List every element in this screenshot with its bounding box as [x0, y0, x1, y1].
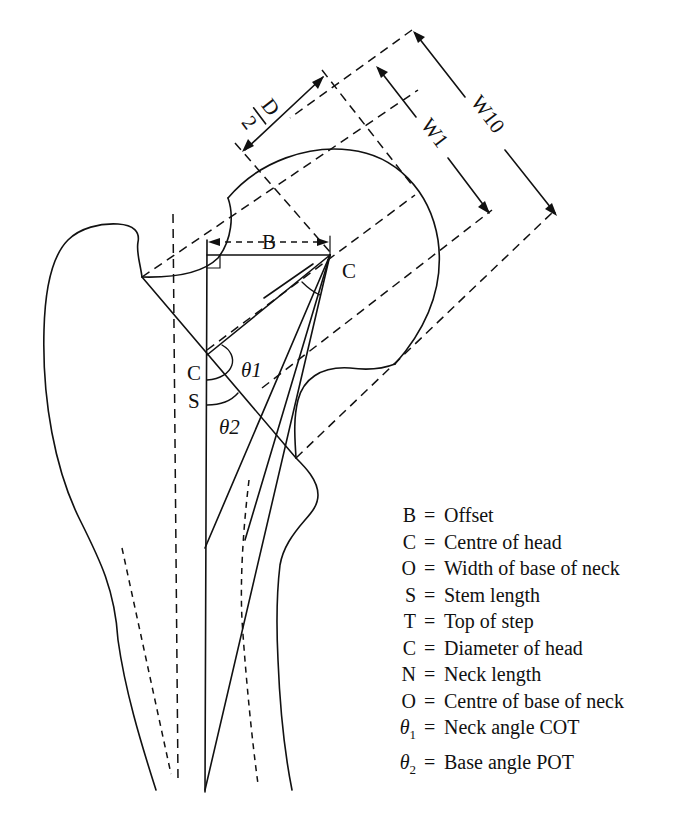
label-w1: W1	[416, 114, 453, 153]
theta-symbol: θ	[400, 751, 410, 773]
arrow-w10-upper	[413, 31, 425, 43]
legend-item: O=Width of base of neck	[372, 555, 624, 582]
legend-item: O=Centre of base of neck	[372, 688, 624, 715]
legend-value: Offset	[444, 502, 494, 529]
theta-symbol: θ	[400, 716, 410, 738]
legend-item: C=Diameter of head	[372, 635, 624, 662]
legend-value: Neck angle COT	[444, 714, 580, 749]
femur-outline-right	[277, 458, 318, 790]
label-d-denominator: 2	[237, 111, 262, 134]
legend-equals: =	[424, 582, 444, 609]
legend-equals: =	[424, 529, 444, 556]
legend-key: C	[372, 635, 424, 662]
shaft-axis-dashed-left	[173, 214, 178, 780]
label-w10: W10	[466, 91, 510, 138]
legend-key: C	[372, 529, 424, 556]
legend-equals: =	[424, 661, 444, 688]
label-theta2: θ2	[219, 415, 240, 439]
legend-equals: =	[424, 749, 444, 784]
dashed-perp-top	[290, 30, 412, 118]
legend: B=Offset C=Centre of head O=Width of bas…	[372, 502, 624, 783]
legend-value: Neck length	[444, 661, 541, 688]
legend-key: θ2	[372, 749, 424, 784]
legend-key: O	[372, 555, 424, 582]
legend-key: O	[372, 688, 424, 715]
label-s: S	[188, 389, 200, 413]
legend-value: Stem length	[444, 582, 540, 609]
legend-item: θ1=Neck angle COT	[372, 714, 624, 749]
legend-value: Centre of base of neck	[444, 688, 624, 715]
legend-item: θ2=Base angle POT	[372, 749, 624, 784]
legend-item: N=Neck length	[372, 661, 624, 688]
arrow-d2-lower	[242, 139, 254, 152]
arrow-w1-lower	[478, 201, 490, 214]
dashed-w10-base	[296, 210, 555, 458]
shaft-inner-dashed-left	[122, 548, 171, 774]
label-theta1: θ1	[241, 358, 262, 382]
legend-equals: =	[424, 714, 444, 749]
dashed-w1-base	[262, 210, 492, 388]
arrow-w1-upper	[376, 66, 388, 78]
neck-axis-parallel	[264, 264, 313, 298]
legend-equals: =	[424, 608, 444, 635]
legend-item: B=Offset	[372, 502, 624, 529]
legend-key: N	[372, 661, 424, 688]
label-c-head: C	[342, 259, 356, 283]
legend-key: T	[372, 608, 424, 635]
legend-key: θ1	[372, 714, 424, 749]
stem-axis	[205, 240, 207, 792]
w1-dimension-lower	[448, 158, 488, 211]
theta-subscript: 1	[410, 727, 417, 742]
legend-value: Centre of head	[444, 529, 562, 556]
legend-value: Base angle POT	[444, 749, 574, 784]
w10-dimension-upper	[415, 33, 465, 97]
legend-value: Width of base of neck	[444, 555, 620, 582]
legend-equals: =	[424, 555, 444, 582]
arrow-left-b	[208, 238, 220, 246]
legend-item: T=Top of step	[372, 608, 624, 635]
legend-key: B	[372, 502, 424, 529]
legend-equals: =	[424, 688, 444, 715]
legend-item: S=Stem length	[372, 582, 624, 609]
theta1-arc	[207, 345, 233, 380]
theta-subscript: 2	[410, 762, 417, 777]
legend-value: Diameter of head	[444, 635, 583, 662]
head-neck-junction-upper	[142, 198, 231, 277]
head-to-stem-line	[205, 255, 330, 548]
legend-key: S	[372, 582, 424, 609]
legend-value: Top of step	[444, 608, 534, 635]
label-b: B	[262, 230, 276, 254]
legend-equals: =	[424, 502, 444, 529]
legend-item: C=Centre of head	[372, 529, 624, 556]
w10-dimension-lower	[505, 150, 555, 213]
dashed-neck-axis	[207, 195, 415, 350]
femur-outline-left	[44, 224, 156, 790]
arrow-d2-upper	[312, 76, 324, 89]
legend-equals: =	[424, 635, 444, 662]
dashed-perp-d-right	[322, 70, 412, 185]
head-to-tip-line	[205, 255, 330, 790]
theta2-arc	[207, 393, 238, 405]
label-c-neck: C	[187, 361, 201, 385]
